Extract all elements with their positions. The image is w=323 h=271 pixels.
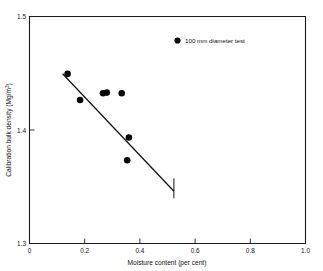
y-axis-title-main: Calibration bulk density (Mg/m (5, 88, 13, 177)
data-point (64, 71, 71, 78)
data-point (124, 157, 131, 164)
y-tick-label-1.5: 1.5 (17, 13, 26, 20)
y-axis-title-group: Calibration bulk density (Mg/m3) (5, 83, 14, 176)
data-points-group (64, 71, 132, 164)
plot-frame (30, 17, 306, 244)
y-axis-title-tail: ) (5, 83, 13, 85)
x-tick-label-0.4: 0.4 (135, 247, 144, 254)
y-tick-label-1.4: 1.4 (17, 127, 26, 134)
data-point (126, 134, 133, 141)
x-axis-title: Moisture content (per cent) (128, 259, 207, 267)
legend: 100 mm diameter test (174, 37, 245, 44)
y-axis-title: Calibration bulk density (Mg/m3) (5, 83, 14, 176)
x-tick-label-0.8: 0.8 (246, 247, 255, 254)
data-point (77, 97, 84, 104)
y-tick-label-1.3: 1.3 (17, 240, 26, 247)
x-tick-label-1.0: 1.0 (301, 247, 310, 254)
x-axis-ticks (30, 239, 306, 244)
legend-marker-icon (174, 37, 180, 43)
legend-label: 100 mm diameter test (185, 37, 245, 44)
regression-line (63, 74, 174, 192)
scatter-plot-svg: 1.5 1.4 1.3 0 0.2 0.4 0.6 0.8 1.0 Moistu… (0, 0, 323, 271)
data-point (118, 90, 125, 97)
x-tick-label-0.2: 0.2 (80, 247, 89, 254)
y-axis-ticks (30, 17, 35, 244)
x-tick-label-0.6: 0.6 (191, 247, 200, 254)
data-point (104, 89, 111, 96)
x-tick-label-0: 0 (28, 247, 32, 254)
chart-figure: 1.5 1.4 1.3 0 0.2 0.4 0.6 0.8 1.0 Moistu… (0, 0, 323, 271)
axis-box (30, 17, 306, 244)
